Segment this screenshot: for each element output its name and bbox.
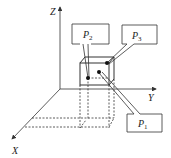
points: [86, 61, 109, 80]
diagram-canvas: Z Y X P2 P3 P1: [0, 0, 171, 158]
z-axis-label: Z: [50, 6, 56, 17]
point-p1: [97, 70, 101, 74]
x-axis: [12, 89, 60, 139]
p1-label: P1: [137, 118, 148, 131]
y-axis-label: Y: [148, 92, 155, 103]
p3-label: P3: [131, 30, 142, 43]
x-axis-label: X: [11, 145, 19, 156]
point-p3: [105, 61, 109, 65]
coordinate-diagram: Z Y X P2 P3 P1: [0, 0, 171, 158]
callout-p2: [72, 24, 109, 78]
point-p2: [86, 76, 90, 80]
p2-label: P2: [82, 29, 93, 42]
